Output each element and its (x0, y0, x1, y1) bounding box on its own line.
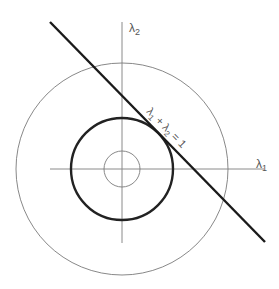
x-axis-label: λ1 (256, 157, 267, 173)
y-axis-label-sub: 2 (135, 27, 140, 37)
constraint-line (50, 22, 265, 242)
diagram-canvas: λ2 λ1 λ1 + λ2 = 1 (0, 0, 279, 289)
x-axis-label-sub: 1 (262, 163, 267, 173)
y-axis-label: λ2 (129, 21, 140, 37)
